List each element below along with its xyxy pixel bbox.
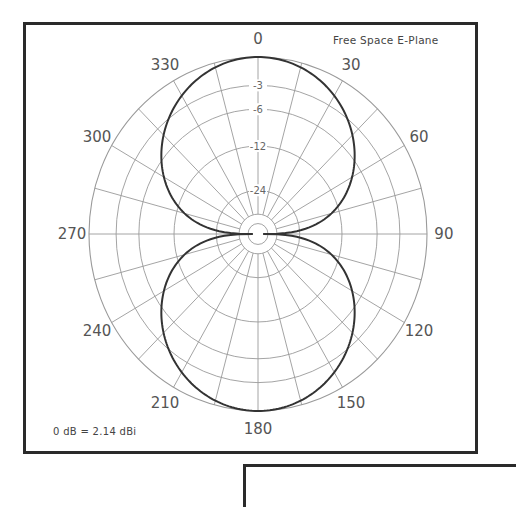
angle-label: 60 (409, 128, 428, 146)
angle-label: 300 (83, 128, 112, 146)
angle-label: 90 (434, 225, 453, 243)
angle-label: 0 (253, 30, 263, 48)
angle-label: 30 (341, 56, 360, 74)
chart-title: Free Space E-Plane (333, 34, 439, 46)
angle-label: 150 (337, 394, 366, 412)
angle-label: 270 (58, 225, 87, 243)
angle-label: 210 (151, 394, 180, 412)
grid-spoke (138, 248, 244, 359)
angle-label: 240 (83, 322, 112, 340)
angle-label: 330 (151, 56, 180, 74)
grid-spoke (271, 248, 377, 359)
ring-label: -12 (250, 141, 266, 152)
ring-label: -24 (250, 185, 266, 196)
ring-label: -3 (253, 80, 263, 91)
angle-label: 180 (244, 420, 273, 438)
angle-label: 120 (405, 322, 434, 340)
grid-spoke (138, 109, 244, 220)
reference-note: 0 dB = 2.14 dBi (53, 426, 136, 437)
grid-spoke (271, 109, 377, 220)
ring-label: -6 (253, 104, 263, 115)
